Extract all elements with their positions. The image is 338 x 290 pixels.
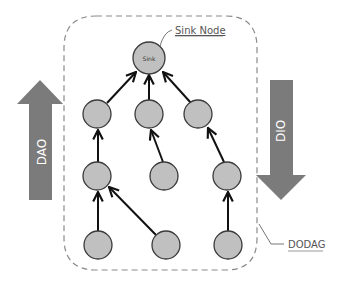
node-n5: [150, 162, 178, 190]
node-n8: [152, 231, 180, 259]
node-n3: [184, 100, 212, 128]
dodag-label: DODAG: [288, 239, 326, 250]
node-n2: [135, 100, 163, 128]
dio-label: DIO: [274, 120, 288, 142]
edge-n6-n3: [208, 128, 224, 162]
edge-n1-sink: [107, 72, 136, 103]
sink-node-label: Sink Node: [175, 25, 226, 36]
sink-label: Sink: [143, 55, 156, 62]
sink-node-callout-line: [160, 30, 172, 46]
node-n9: [214, 231, 242, 259]
dao-label: DAO: [35, 139, 49, 165]
node-n7: [84, 231, 112, 259]
rpl-dodag-diagram: DAO DIO Sink Sink Node DODAG: [0, 0, 338, 290]
dodag-callout-line: [259, 224, 284, 244]
edge-n5-n2: [151, 130, 163, 162]
edge-n8-n4: [109, 187, 156, 235]
node-n6: [213, 162, 241, 190]
edge-n3-sink: [163, 72, 191, 103]
dodag-edges: [98, 72, 228, 235]
node-n1: [83, 100, 111, 128]
node-n4: [83, 162, 111, 190]
